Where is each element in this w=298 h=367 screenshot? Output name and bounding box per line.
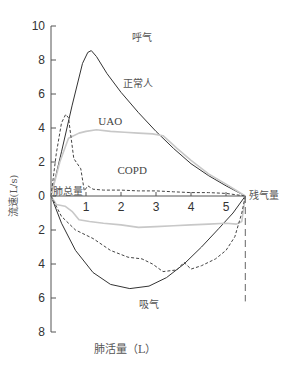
y-tick-label: 10	[32, 19, 46, 33]
annotation-label: 肺总量	[53, 185, 83, 197]
series-line	[51, 196, 245, 227]
series-line	[51, 196, 245, 272]
y-tick-label: 4	[38, 121, 45, 135]
annotation-label: 吸气	[139, 298, 159, 310]
y-tick-label: 8	[38, 53, 45, 67]
x-tick-label: 5	[223, 200, 230, 214]
axes: 1086420246812345	[32, 19, 246, 339]
y-tick-label: 0	[38, 189, 45, 203]
series-line	[51, 114, 245, 196]
annotation-label: 正常人	[123, 77, 153, 89]
y-tick-label: 2	[38, 223, 45, 237]
y-tick-label: 6	[38, 291, 45, 305]
annotation-label: 残气量	[249, 189, 279, 201]
series-line	[51, 196, 245, 289]
annotation-label: 呼气	[132, 31, 152, 43]
x-tick-label: 2	[118, 200, 125, 214]
x-tick-label: 4	[188, 200, 195, 214]
x-tick-label: 3	[153, 200, 160, 214]
annotation-label: COPD	[118, 164, 147, 176]
y-tick-label: 2	[38, 155, 45, 169]
y-tick-label: 8	[38, 325, 45, 339]
x-tick-label: 1	[83, 200, 90, 214]
y-axis-label: 流速(L/s)	[7, 174, 19, 217]
flow-volume-chart: 1086420246812345 呼气正常人UAOCOPD肺总量残气量吸气 流速…	[0, 0, 298, 367]
annotation-label: UAO	[98, 115, 122, 127]
series-line	[51, 51, 245, 196]
x-axis-label: 肺活量（L）	[94, 343, 156, 356]
y-tick-label: 4	[38, 257, 45, 271]
y-tick-label: 6	[38, 87, 45, 101]
